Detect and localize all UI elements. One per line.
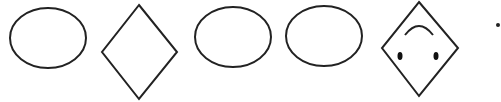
diamond-2: [382, 2, 458, 96]
ellipse-3: [286, 6, 362, 66]
left-eye-dot: [398, 52, 403, 60]
arc-mouth-icon: [405, 26, 433, 35]
diamond-face: [382, 2, 458, 96]
right-eye-dot: [434, 52, 439, 60]
ellipse-2: [195, 7, 271, 67]
ellipse-1: [10, 8, 86, 68]
shape-sequence-diagram: [0, 0, 501, 102]
trailing-dot: [496, 23, 500, 27]
diamond-1: [102, 5, 177, 99]
